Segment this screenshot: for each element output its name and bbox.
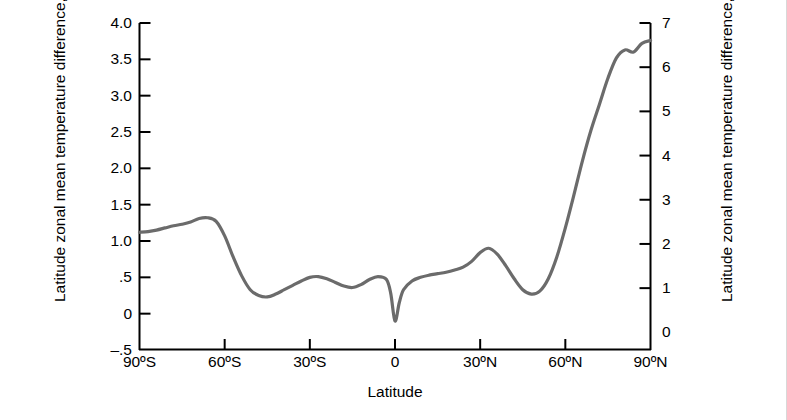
x-tick-label-2: 30ºS (275, 353, 345, 371)
y-tick-label-left-7: 3.0 (88, 87, 132, 105)
y-tick-label-right-3: 3 (662, 191, 706, 209)
data-series-line (140, 40, 651, 321)
y-ticks-right (640, 23, 651, 288)
x-tick-label-1: 60ºS (190, 353, 260, 371)
y-tick-label-right-7: 7 (662, 14, 706, 32)
x-ticks (225, 339, 566, 350)
y-tick-label-left-6: 2.5 (88, 123, 132, 141)
x-axis-label: Latitude (330, 382, 460, 401)
y-tick-label-right-4: 4 (662, 147, 706, 165)
y-tick-label-left-1: 0 (88, 305, 132, 323)
y-tick-label-right-6: 6 (662, 58, 706, 76)
x-axis-label-text: Latitude (367, 383, 422, 400)
y-tick-label-left-5: 2.0 (88, 159, 132, 177)
x-tick-label-3: 0 (360, 353, 430, 371)
y-tick-label-left-3: 1.0 (88, 232, 132, 250)
y-ticks-left (140, 23, 151, 314)
axis-frame (139, 23, 651, 350)
y-axis-label-right-text: Latitude zonal mean temperature differen… (718, 0, 735, 302)
x-tick-label-4: 30ºN (445, 353, 515, 371)
x-tick-label-6: 90ºN (616, 353, 686, 371)
y-axis-label-left: Latitude zonal mean temperature differen… (50, 57, 69, 302)
x-tick-label-5: 60ºN (530, 353, 600, 371)
chart-figure: Latitude zonal mean temperature differen… (0, 0, 787, 420)
y-tick-label-left-2: .5 (88, 268, 132, 286)
y-tick-label-right-5: 5 (662, 102, 706, 120)
y-axis-label-right: Latitude zonal mean temperature differen… (717, 57, 736, 302)
y-tick-label-left-9: 4.0 (88, 14, 132, 32)
y-tick-label-right-2: 2 (662, 235, 706, 253)
y-axis-label-left-text: Latitude zonal mean temperature differen… (51, 0, 68, 302)
y-tick-label-right-0: 0 (662, 323, 706, 341)
y-tick-label-left-8: 3.5 (88, 50, 132, 68)
x-tick-label-0: 90ºS (105, 353, 175, 371)
y-tick-label-right-1: 1 (662, 279, 706, 297)
y-tick-label-left-4: 1.5 (88, 196, 132, 214)
